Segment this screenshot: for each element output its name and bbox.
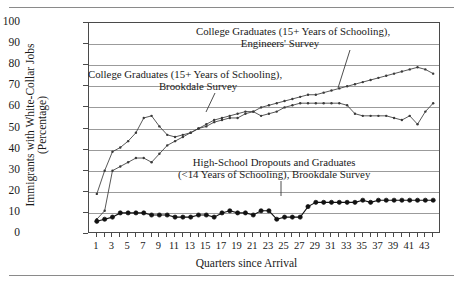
leader-brookdale	[206, 93, 215, 112]
figure-container: Immigrants with White-Collar Jobs (Perce…	[0, 0, 463, 289]
leader-engineers	[338, 50, 350, 88]
annotation-leader-lines	[0, 0, 463, 289]
